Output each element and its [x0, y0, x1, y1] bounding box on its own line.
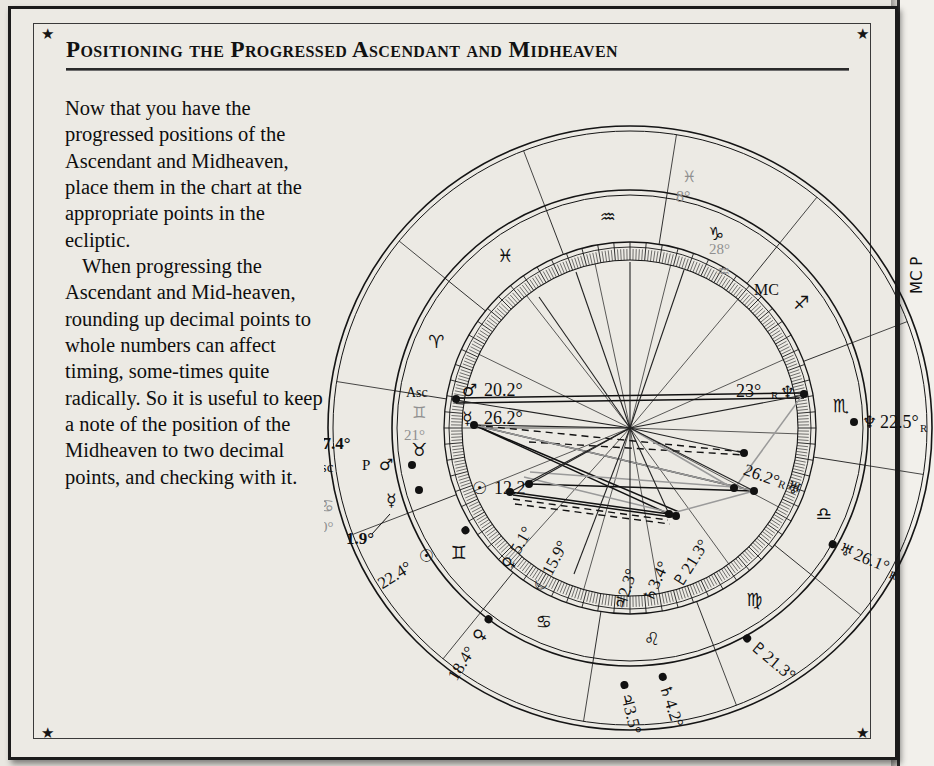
- planet-glyph-mercury: ☿: [462, 408, 472, 428]
- star-icon: ★: [41, 726, 54, 741]
- planet-value-moon: 15.9°: [538, 537, 572, 578]
- paragraph-2: When progressing the Ascendant and Mid-h…: [65, 253, 327, 490]
- page-title: Positioning the Progressed Ascendant and…: [66, 37, 826, 71]
- outer-value-sun: 22.4°: [374, 557, 415, 592]
- planet-value-jupiter: 2.3°: [614, 566, 641, 599]
- asc-alt-sign-glyph: ♋: [324, 496, 334, 516]
- asc-degree: 21°: [404, 427, 425, 443]
- outer-glyph-venus: ♀: [468, 625, 490, 645]
- mc-sign-glyph: ♒: [716, 262, 730, 281]
- body-copy: Now that you have the progressed positio…: [65, 95, 327, 490]
- zodiac-glyph-cancer: ♋: [536, 611, 552, 632]
- outer-value-mercury: 1.9°: [346, 529, 374, 548]
- mc-p-degree: 8°: [676, 188, 690, 205]
- mc-p-sign-glyph: ♓: [682, 167, 696, 186]
- outer-glyph-mercury: ☿: [386, 490, 396, 510]
- planet-glyph-venus: ♀: [497, 553, 519, 573]
- planet-glyph-mars: ♂: [462, 380, 477, 400]
- planet-value-saturn: 3.4°: [644, 558, 673, 591]
- page-title-text: Positioning the Progressed Ascendant and…: [66, 37, 826, 63]
- asc-alt-degree: 0°: [324, 519, 334, 535]
- paragraph-1: Now that you have the progressed positio…: [65, 95, 327, 253]
- mc-degree: 28°: [709, 241, 730, 257]
- zodiac-glyph-aries: ♈: [428, 331, 444, 352]
- outer-value-pluto: 21.3°: [759, 647, 799, 685]
- planet-value-mercury: 26.2°: [484, 408, 523, 428]
- zodiac-glyph-leo: ♌: [644, 628, 660, 649]
- mc-p-text: MC P: [908, 257, 926, 294]
- planet-glyph-sun: ☉: [472, 478, 487, 498]
- zodiac-glyph-sagittarius: ♐: [793, 292, 809, 313]
- asc-sign-glyph: ♊: [412, 403, 426, 422]
- planet-value-sun: 12.2°: [494, 478, 533, 498]
- p-asc-degree: 27.4°: [324, 434, 351, 453]
- outer-value-uranus: 26.1°: [851, 545, 892, 576]
- planet-value-uranus: 26.2°: [741, 460, 782, 490]
- planet-value-neptune: 23°: [736, 381, 761, 401]
- zodiac-glyph-scorpio: ♏: [833, 395, 849, 416]
- zodiac-glyph-libra: ♎: [816, 503, 832, 524]
- zodiac-glyph-aquarius: ♒: [600, 206, 616, 227]
- star-icon: ★: [41, 27, 54, 42]
- asc-text: Asc: [406, 385, 428, 400]
- star-icon: ★: [856, 27, 869, 42]
- planet-value-pluto: 21.3°: [677, 536, 712, 577]
- outer-uranus-retrograde: R: [888, 568, 900, 582]
- astrology-chart: ♈♓♒♑♐♏♎♍♌♋♊♉: [324, 122, 934, 734]
- outer-neptune-retrograde: R: [920, 422, 928, 434]
- planet-value-mars: 20.2°: [484, 380, 523, 400]
- outer-value-saturn: 4.2°: [661, 697, 688, 730]
- mc-text: MC: [754, 281, 779, 298]
- p-asc-text: Asc: [324, 459, 334, 475]
- p-asc-glyph: ♂: [379, 455, 393, 474]
- zodiac-glyph-pisces: ♓: [497, 245, 513, 266]
- asc-label: Asc ♊ 21°: [404, 385, 428, 443]
- zodiac-glyph-gemini: ♊: [450, 542, 466, 563]
- title-divider: [66, 68, 849, 71]
- chart-svg: ♈♓♒♑♐♏♎♍♌♋♊♉: [324, 122, 934, 734]
- planet-value-venus: 5.1°: [506, 523, 536, 557]
- outer-value-neptune: 22.5°: [880, 412, 919, 432]
- zodiac-glyph-virgo: ♍: [747, 589, 763, 610]
- page-paper: ★ ★ ★ ★ Positioning the Progressed Ascen…: [8, 6, 898, 760]
- planet-glyph-neptune: ♆: [780, 382, 795, 402]
- p-asc-p: P: [362, 457, 370, 473]
- mc-label: 28° ♒ MC: [709, 241, 779, 298]
- neptune-retrograde: R: [771, 389, 779, 401]
- book-page: ★ ★ ★ ★ Positioning the Progressed Ascen…: [0, 0, 934, 766]
- outer-glyph-neptune: ♆: [862, 412, 877, 432]
